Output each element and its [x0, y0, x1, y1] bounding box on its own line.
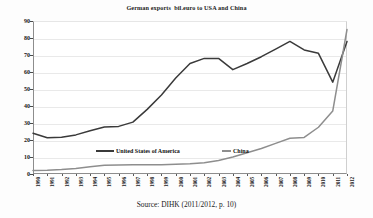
x-axis-tick-mark	[104, 174, 105, 176]
x-axis-tick-label: 2005	[249, 177, 255, 187]
x-axis-tick-mark	[233, 174, 234, 176]
x-axis-tick-mark	[90, 174, 91, 176]
series-layer	[33, 21, 347, 174]
x-axis-tick-label: 2009	[306, 177, 312, 187]
x-axis-tick-label: 2003	[221, 177, 227, 187]
x-axis-tick-mark	[290, 174, 291, 176]
x-axis-tick-label: 2006	[263, 177, 269, 187]
x-axis-tick-label: 1993	[78, 177, 84, 187]
legend-item-usa: United States of America	[96, 148, 180, 154]
x-axis-tick-mark	[47, 174, 48, 176]
x-axis-tick-label: 2011	[335, 177, 341, 187]
x-axis-tick-label: 2007	[278, 177, 284, 187]
x-axis-tick-label: 2004	[235, 177, 241, 187]
x-axis-tick-label: 2000	[178, 177, 184, 187]
x-axis-tick-label: 1998	[149, 177, 155, 187]
x-axis-tick-mark	[62, 174, 63, 176]
legend-label-china: China	[233, 148, 249, 154]
x-axis-tick-label: 1991	[49, 177, 55, 187]
y-axis: 0102030405060708090	[0, 21, 33, 174]
x-axis-tick-mark	[133, 174, 134, 176]
x-axis-tick-mark	[176, 174, 177, 176]
x-axis-tick-label: 2002	[206, 177, 212, 187]
chart-title: German exports bil.euro to USA and China	[0, 4, 373, 11]
x-axis-tick-mark	[190, 174, 191, 176]
chart-figure: German exports bil.euro to USA and China…	[0, 0, 373, 218]
legend-swatch-china-icon	[222, 150, 231, 151]
x-axis-tick-label: 2012	[349, 177, 355, 187]
legend-item-china: China	[222, 148, 249, 154]
x-axis-tick-mark	[304, 174, 305, 176]
x-axis-tick-mark	[318, 174, 319, 176]
x-axis-tick-mark	[76, 174, 77, 176]
series-line-china	[33, 30, 347, 171]
x-axis-tick-label: 1999	[163, 177, 169, 187]
x-axis-tick-mark	[147, 174, 148, 176]
x-axis-tick-mark	[347, 174, 348, 176]
source-caption: Source: DIHK (2011/2012, p. 10)	[0, 200, 373, 209]
x-axis-tick-label: 1997	[135, 177, 141, 187]
x-axis-tick-label: 1996	[121, 177, 127, 187]
x-axis-tick-label: 2008	[292, 177, 298, 187]
x-axis-tick-mark	[33, 174, 34, 176]
legend-swatch-usa-icon	[96, 150, 114, 152]
x-axis-tick-label: 2010	[320, 177, 326, 187]
x-axis-tick-mark	[247, 174, 248, 176]
x-axis-tick-label: 1994	[92, 177, 98, 187]
x-axis-tick-mark	[333, 174, 334, 176]
legend-label-usa: United States of America	[116, 148, 180, 154]
series-line-united-states-of-america	[33, 41, 347, 137]
x-axis-tick-mark	[261, 174, 262, 176]
x-axis-tick-mark	[204, 174, 205, 176]
x-axis-tick-label: 1995	[106, 177, 112, 187]
x-axis-tick-label: 1992	[64, 177, 70, 187]
x-axis-tick-mark	[219, 174, 220, 176]
x-axis-tick-mark	[276, 174, 277, 176]
x-axis-tick-label: 1990	[35, 177, 41, 187]
x-axis-tick-label: 2001	[192, 177, 198, 187]
x-axis-tick-mark	[119, 174, 120, 176]
x-axis-tick-mark	[161, 174, 162, 176]
